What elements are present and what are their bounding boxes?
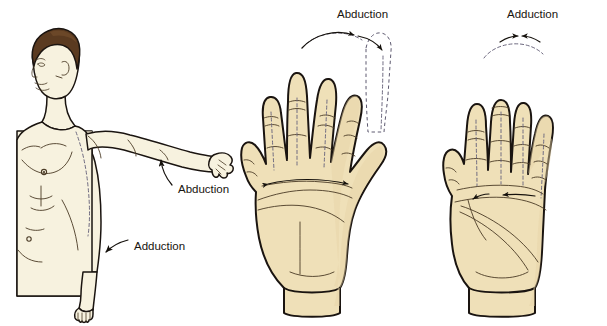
label-adduction-hand: Adduction [507,8,558,20]
torso [17,122,92,296]
label-abduction-hand: Abduction [337,8,388,20]
nipple-center [43,171,45,173]
label-abduction-body: Abduction [178,183,229,195]
anatomy-illustration: .out { stroke:#1A1410; stroke-width:1.5;… [0,0,607,326]
anatomy-figure-canvas: .out { stroke:#1A1410; stroke-width:1.5;… [0,0,607,326]
label-adduction-body: Adduction [134,240,185,252]
wrist-cuff [284,288,340,317]
wrist-cuff-2 [469,288,535,317]
